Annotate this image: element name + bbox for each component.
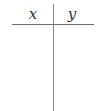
t-chart-table: x y bbox=[0, 0, 99, 111]
column-header-x: x bbox=[23, 6, 43, 22]
column-header-y: y bbox=[62, 6, 82, 22]
column-divider-line bbox=[53, 4, 54, 111]
